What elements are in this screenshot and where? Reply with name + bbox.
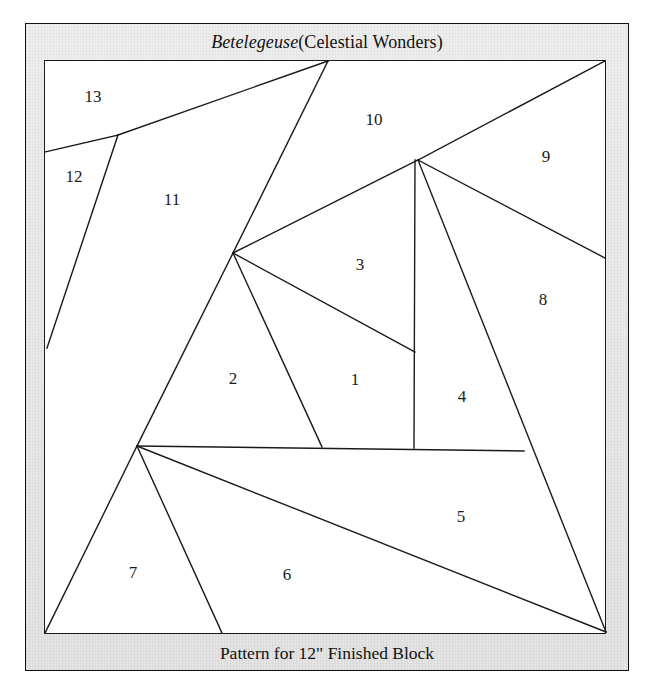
piece-number-6: 6 (283, 565, 292, 585)
seam-line-center-hub-to-piece1-notch (233, 253, 415, 352)
pattern-caption-text: Pattern for 12" Finished Block (220, 643, 434, 664)
piece-number-1: 1 (351, 370, 360, 390)
seam-line-right-hub-to-bottom-right (418, 160, 606, 632)
pattern-page: Betelegeuse (Celestial Wonders) 12345678… (0, 0, 655, 694)
seam-line-center-hub-to-lower-hub (137, 253, 233, 446)
seam-line-right-hub-vertical (414, 160, 415, 448)
piece-number-4: 4 (458, 387, 467, 407)
piece-number-3: 3 (356, 255, 365, 275)
piece-number-7: 7 (129, 563, 138, 583)
pattern-caption: Pattern for 12" Finished Block (26, 636, 628, 670)
piece-number-11: 11 (164, 190, 180, 210)
piece-number-8: 8 (539, 290, 548, 310)
seam-line-mid-horizontal (137, 446, 524, 451)
piece-number-13: 13 (85, 87, 102, 107)
piece-number-9: 9 (542, 147, 551, 167)
seam-line-upper-left-notch-to-left-edge (45, 135, 118, 152)
piece-number-12: 12 (66, 167, 83, 187)
seam-line-right-hub-to-top-right-corner (418, 61, 605, 160)
piece-number-5: 5 (457, 507, 466, 527)
seam-line-center-hub-to-right-hub (233, 160, 418, 253)
seam-line-center-hub-to-horizontal (233, 253, 322, 447)
seam-line-piece12-right-edge (47, 135, 118, 348)
seam-lines-group (45, 61, 606, 633)
piece-number-10: 10 (366, 110, 383, 130)
seam-line-lower-hub-to-bottom-left-corner (45, 446, 137, 633)
seam-line-right-hub-to-right-edge (418, 160, 605, 258)
seam-line-lower-hub-to-bottom-right (137, 446, 606, 632)
piece-number-2: 2 (229, 369, 238, 389)
